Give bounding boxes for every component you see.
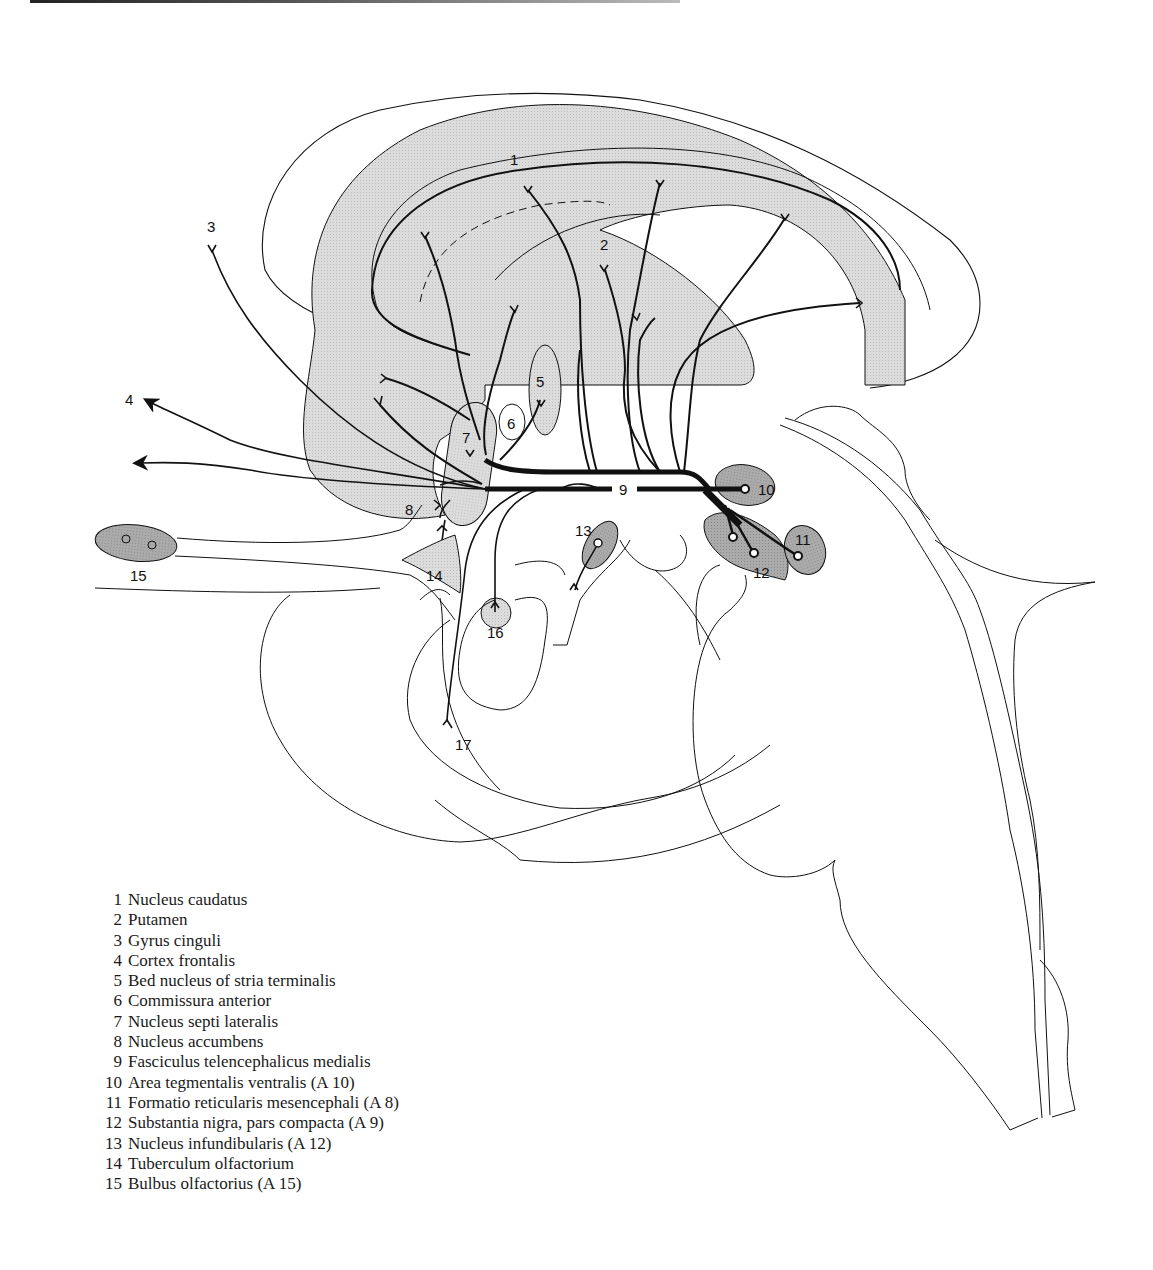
label-17: 17 [455, 736, 472, 753]
legend-item: 14Tuberculum olfactorium [100, 1154, 399, 1174]
legend-label: Nucleus infundibularis (A 12) [128, 1134, 332, 1154]
legend-item: 4Cortex frontalis [100, 951, 399, 971]
label-7: 7 [462, 429, 470, 446]
label-5: 5 [536, 373, 544, 390]
label-2: 2 [600, 236, 608, 253]
label-16: 16 [487, 624, 504, 641]
legend-label: Substantia nigra, pars compacta (A 9) [128, 1113, 384, 1133]
legend-label: Nucleus septi lateralis [128, 1012, 278, 1032]
label-9: 9 [619, 481, 627, 498]
legend-label: Commissura anterior [128, 991, 271, 1011]
legend-item: 1Nucleus caudatus [100, 890, 399, 910]
label-15: 15 [130, 567, 147, 584]
substantia-nigra-12 [704, 513, 788, 580]
label-11: 11 [795, 531, 811, 548]
legend-label: Bed nucleus of stria terminalis [128, 971, 336, 991]
legend-item: 10Area tegmentalis ventralis (A 10) [100, 1073, 399, 1093]
medial-forebrain-bundle-9 [485, 460, 749, 525]
legend-item: 9Fasciculus telencephalicus medialis [100, 1052, 399, 1072]
legend-item: 6Commissura anterior [100, 991, 399, 1011]
legend-item: 11Formatio reticularis mesencephali (A 8… [100, 1093, 399, 1113]
olfactory-bulb-15 [93, 521, 178, 565]
label-10: 10 [758, 481, 775, 498]
label-12: 12 [753, 564, 770, 581]
legend-item: 3Gyrus cinguli [100, 931, 399, 951]
olfactory-tract [95, 505, 455, 620]
legend-label: Fasciculus telencephalicus medialis [128, 1052, 371, 1072]
label-4: 4 [125, 391, 133, 408]
temporal-lobe-outline [260, 590, 780, 863]
brainstem-outline [693, 406, 1095, 1130]
label-1: 1 [510, 151, 518, 168]
striatum-region [304, 105, 905, 519]
legend-item: 13Nucleus infundibularis (A 12) [100, 1134, 399, 1154]
legend-label: Nucleus caudatus [128, 890, 247, 910]
label-3: 3 [207, 218, 215, 235]
legend-item: 2Putamen [100, 910, 399, 930]
legend-label: Area tegmentalis ventralis (A 10) [128, 1073, 355, 1093]
label-14: 14 [426, 567, 443, 584]
legend-label: Cortex frontalis [128, 951, 235, 971]
legend-item: 7Nucleus septi lateralis [100, 1012, 399, 1032]
legend-label: Formatio reticularis mesencephali (A 8) [128, 1093, 399, 1113]
legend-item: 12Substantia nigra, pars compacta (A 9) [100, 1113, 399, 1133]
legend-item: 5Bed nucleus of stria terminalis [100, 971, 399, 991]
legend-label: Putamen [128, 910, 188, 930]
legend: 1Nucleus caudatus 2Putamen 3Gyrus cingul… [100, 890, 399, 1194]
label-13: 13 [575, 522, 592, 539]
tuberculum-olfactorium-14 [402, 535, 461, 593]
legend-label: Tuberculum olfactorium [128, 1154, 294, 1174]
legend-label: Nucleus accumbens [128, 1032, 263, 1052]
label-8: 8 [405, 501, 413, 518]
bed-nucleus-5 [529, 345, 561, 435]
label-6: 6 [507, 415, 515, 432]
legend-label: Gyrus cinguli [128, 931, 221, 951]
legend-label: Bulbus olfactorius (A 15) [128, 1174, 301, 1194]
legend-item: 15Bulbus olfactorius (A 15) [100, 1174, 399, 1194]
legend-item: 8Nucleus accumbens [100, 1032, 399, 1052]
